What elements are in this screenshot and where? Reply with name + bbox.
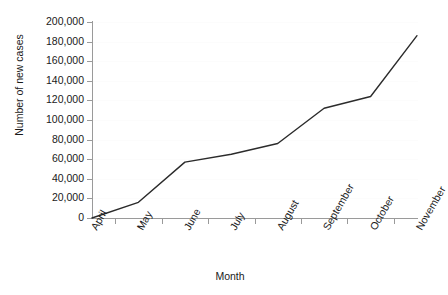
- series-polyline: [92, 36, 417, 218]
- x-axis-title: Month: [160, 270, 300, 282]
